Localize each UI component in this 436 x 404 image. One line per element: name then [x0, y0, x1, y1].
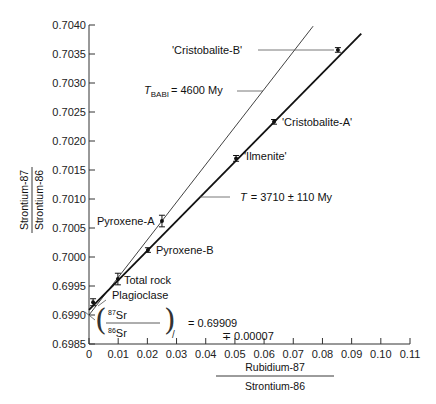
- svg-text:86Sr: 86Sr: [108, 327, 127, 339]
- regression-lines: [89, 26, 361, 315]
- x-tick-label: 0.01: [107, 348, 128, 360]
- svg-text:Strontium-86: Strontium-86: [33, 170, 45, 230]
- y-tick-label: 0.6985: [52, 338, 86, 350]
- svg-text:(: (: [95, 302, 107, 337]
- label-cristobalite-b: 'Cristobalite-B': [172, 44, 242, 56]
- isochron-age-label: T= 3710 ± 110 My: [240, 191, 333, 203]
- isochron-chart: 0.69850.69900.69950.70000.70050.70100.70…: [0, 0, 436, 404]
- x-tick-label: 0.06: [253, 348, 274, 360]
- x-tick-label: 0.08: [312, 348, 333, 360]
- babi-age-label: TBABI= 4600 My: [144, 84, 223, 99]
- label-pyroxene-b: Pyroxene-B: [156, 244, 213, 256]
- label-total-rock: Total rock: [124, 274, 172, 286]
- x-axis-title: Rubidium-87 Strontium-86: [216, 361, 334, 392]
- x-tick-label: 0.02: [137, 348, 158, 360]
- basaltic-achondrite-reference-line: [89, 26, 313, 315]
- y-tick-label: 0.6990: [52, 309, 86, 321]
- svg-text:87Sr: 87Sr: [108, 309, 127, 321]
- y-tick-label: 0.7030: [52, 77, 86, 89]
- x-tick-label: 0.11: [400, 348, 421, 360]
- x-tick-label: 0.05: [224, 348, 245, 360]
- y-tick-label: 0.7035: [52, 48, 86, 60]
- y-tick-label: 0.7040: [52, 19, 86, 31]
- x-tick-label: 0.10: [370, 348, 391, 360]
- x-tick-label: 0.03: [166, 348, 187, 360]
- y-axis-title: Strontium-87 Strontium-86: [18, 167, 45, 233]
- y-tick-label: 0.6995: [52, 280, 86, 292]
- y-tick-label: 0.7010: [52, 193, 86, 205]
- label-ilmenite: 'Ilmenite': [244, 150, 287, 162]
- y-tick-label: 0.7015: [52, 164, 86, 176]
- y-tick-label: 0.7020: [52, 135, 86, 147]
- svg-text:Rubidium-87: Rubidium-87: [245, 361, 305, 373]
- svg-text:Strontium-87: Strontium-87: [18, 170, 30, 230]
- label-plagioclase: Plagioclase: [112, 289, 168, 301]
- y-tick-label: 0.7000: [52, 251, 86, 263]
- x-tick-label: 0: [86, 348, 92, 360]
- x-tick-label: 0.07: [283, 348, 304, 360]
- x-tick-label: 0.09: [341, 348, 362, 360]
- y-tick-label: 0.7005: [52, 222, 86, 234]
- initial-ratio-annotation: ( ) 87Sr 86Sr / = 0.69909 ∓ 0.00007: [95, 302, 274, 342]
- data-point: [159, 215, 165, 227]
- svg-text:Strontium-86: Strontium-86: [245, 380, 305, 392]
- label-pyroxene-a: Pyroxene-A: [97, 215, 155, 227]
- isochron-line: [89, 34, 361, 310]
- intercept-error: ∓ 0.00007: [222, 330, 274, 342]
- svg-text:/: /: [172, 329, 175, 340]
- y-tick-label: 0.7025: [52, 106, 86, 118]
- intercept-value: = 0.69909: [188, 317, 237, 329]
- x-tick-label: 0.04: [195, 348, 216, 360]
- data-point: [335, 48, 341, 53]
- label-cristobalite-a: 'Cristobalite-A': [282, 116, 352, 128]
